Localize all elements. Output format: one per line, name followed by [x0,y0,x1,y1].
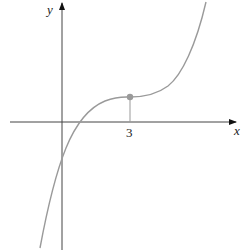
inflection-point [127,94,133,100]
tick-label-3: 3 [126,125,133,140]
y-axis-label: y [45,2,53,17]
graph: y x 3 [0,0,242,250]
function-curve [40,2,206,248]
x-axis-label: x [233,123,240,138]
